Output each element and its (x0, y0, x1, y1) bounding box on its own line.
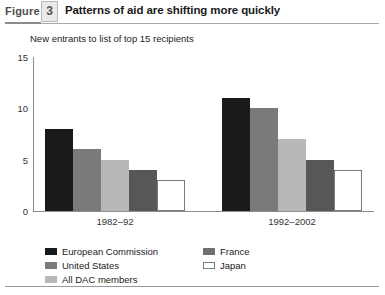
bar (250, 108, 278, 211)
legend-column-right: FranceJapan (203, 245, 250, 273)
legend-label: European Commission (62, 246, 158, 257)
y-axis-line (33, 57, 34, 212)
legend-swatch (203, 262, 215, 269)
figure-title: Patterns of aid are shifting more quickl… (65, 4, 280, 16)
legend-swatch (203, 248, 215, 255)
bar (278, 139, 306, 211)
y-tick-label: 0 (2, 206, 28, 217)
legend-item: Japan (203, 259, 250, 271)
bar (222, 98, 250, 211)
bar (73, 149, 101, 211)
y-tick-label: 15 (2, 52, 28, 63)
legend-column-left: European CommissionUnited StatesAll DAC … (45, 245, 158, 287)
bar (45, 129, 73, 211)
bar (306, 160, 334, 211)
legend-label: All DAC members (62, 274, 138, 285)
bar (129, 170, 157, 211)
figure-header: Figure 3 Patterns of aid are shifting mo… (0, 0, 385, 27)
legend-item: All DAC members (45, 273, 158, 285)
legend-item: United States (45, 259, 158, 271)
figure-label: Figure (5, 5, 40, 17)
category-label: 1992–2002 (207, 216, 377, 227)
y-tick-label: 5 (2, 154, 28, 165)
legend-swatch (45, 248, 57, 255)
legend-label: United States (62, 260, 119, 271)
footer-divider (5, 286, 379, 287)
bar (101, 160, 129, 211)
legend-swatch (45, 262, 57, 269)
header-divider (5, 23, 379, 24)
legend-label: France (220, 246, 250, 257)
category-label: 1982–92 (30, 216, 200, 227)
header-divider-accent (5, 22, 41, 24)
bar (157, 180, 185, 211)
legend-item: European Commission (45, 245, 158, 257)
figure-number: 3 (41, 4, 58, 18)
y-tick-label: 10 (2, 103, 28, 114)
chart-subtitle: New entrants to list of top 15 recipient… (30, 33, 194, 44)
legend-label: Japan (220, 260, 246, 271)
bar (334, 170, 362, 211)
legend-swatch (45, 276, 57, 283)
legend-item: France (203, 245, 250, 257)
x-axis-line (33, 211, 374, 212)
